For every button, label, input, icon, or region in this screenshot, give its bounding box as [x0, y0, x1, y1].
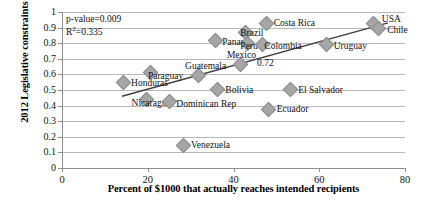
y-tick-label: 1: [22, 7, 56, 17]
x-tick-label: 0: [42, 175, 82, 186]
y-tick-label: 0.2: [22, 132, 56, 142]
data-point-label: El Salvador: [298, 86, 343, 96]
x-tick-label: 40: [214, 175, 254, 186]
data-point-label: Bolivia: [225, 86, 253, 96]
plot-area: HondurasParaguayNicaraguaDominican RepVe…: [62, 12, 405, 168]
data-point-label: Costa Rica: [274, 19, 315, 29]
y-tick-label: 0.8: [22, 38, 56, 48]
y-tick-label: 0.1: [22, 147, 56, 157]
x-tick-label: 80: [385, 175, 423, 186]
data-point-label: Brazil: [240, 29, 263, 39]
y-tick-label: 0.3: [22, 116, 56, 126]
y-tick-label: 0.5: [22, 85, 56, 95]
y-tick-label: 0.9: [22, 23, 56, 33]
p-value-text: p-value=0.009: [66, 14, 121, 25]
data-point-label: Mexico: [227, 51, 256, 61]
data-point-label: USA: [382, 15, 401, 25]
x-tick-mark: [405, 168, 406, 172]
data-point-label: Paraguay: [148, 72, 183, 82]
r-squared-value: =0.335: [76, 27, 103, 37]
data-point-label: Guatemala: [185, 62, 226, 72]
x-tick-mark: [319, 168, 320, 172]
y-tick-label: 0: [22, 163, 56, 173]
data-point-label: Ecuador: [277, 105, 309, 115]
data-point-label: Venezuela: [191, 141, 230, 151]
y-tick-label: 0.7: [22, 54, 56, 64]
point-value-label: 0.72: [257, 59, 274, 69]
x-tick-mark: [62, 168, 63, 172]
r-squared-text: R2=0.335: [66, 25, 121, 38]
data-point-label: Colombia: [264, 42, 301, 52]
x-tick-mark: [234, 168, 235, 172]
chart-figure: 2012 Legislative constraints score Perce…: [0, 0, 423, 204]
y-tick-label: 0.4: [22, 101, 56, 111]
stats-annotation: p-value=0.009 R2=0.335: [66, 14, 121, 39]
x-tick-label: 20: [128, 175, 168, 186]
data-point-label: Dominican Rep: [176, 100, 236, 110]
data-point-label: Uruguay: [334, 42, 367, 52]
x-tick-mark: [148, 168, 149, 172]
x-tick-label: 60: [299, 175, 339, 186]
data-point-label: Chile: [387, 26, 408, 36]
y-tick-label: 0.6: [22, 69, 56, 79]
